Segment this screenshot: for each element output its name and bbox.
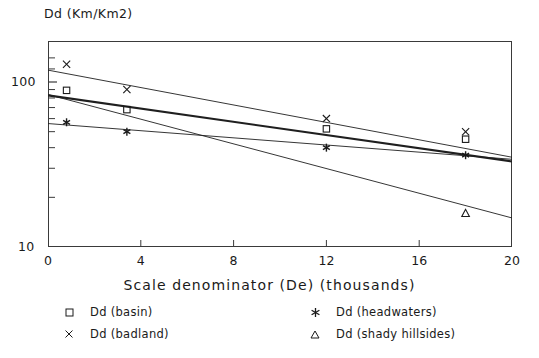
legend-item-asterisk: Dd (headwaters)	[304, 305, 437, 319]
plot-area	[48, 41, 512, 247]
y-tick-label-10: 10	[18, 239, 35, 254]
square-icon	[58, 308, 80, 317]
legend-label: Dd (badland)	[90, 327, 169, 341]
x-tick-label: 16	[411, 253, 427, 268]
legend-label: Dd (headwaters)	[336, 305, 437, 319]
data-point-asterisk	[123, 128, 130, 136]
chart-legend: Dd (basin)Dd (badland)Dd (headwaters)Dd …	[58, 305, 518, 353]
cross-icon	[58, 329, 80, 339]
data-point-triangle	[462, 209, 470, 216]
data-point-cross	[462, 128, 469, 135]
data-point-cross	[323, 115, 330, 122]
x-tick-label: 12	[318, 253, 334, 268]
data-point-square	[462, 136, 468, 142]
data-point-square	[323, 126, 329, 132]
legend-item-triangle: Dd (shady hillsides)	[304, 327, 455, 341]
triangle-icon	[304, 330, 326, 339]
y-axis-title: Dd (Km/Km2)	[44, 6, 133, 21]
x-tick-label: 0	[44, 253, 52, 268]
x-tick-label: 20	[504, 253, 520, 268]
plot-svg	[48, 41, 512, 247]
data-point-cross	[123, 86, 130, 93]
x-tick-labels: 048121620	[0, 253, 539, 271]
legend-label: Dd (basin)	[90, 305, 153, 319]
chart-figure: Dd (Km/Km2) 100 10 048121620 Scale denom…	[0, 0, 539, 358]
regression-lines	[48, 70, 512, 218]
legend-item-cross: Dd (badland)	[58, 327, 169, 341]
y-tick-label-100: 100	[11, 74, 36, 89]
x-tick-label: 4	[137, 253, 145, 268]
x-axis-title: Scale denominator (De) (thousands)	[0, 277, 539, 293]
legend-label: Dd (shady hillsides)	[336, 327, 455, 341]
legend-item-square: Dd (basin)	[58, 305, 153, 319]
asterisk-icon	[304, 307, 326, 318]
data-point-cross	[63, 61, 70, 68]
x-tick-label: 8	[230, 253, 238, 268]
data-point-square	[63, 87, 69, 93]
